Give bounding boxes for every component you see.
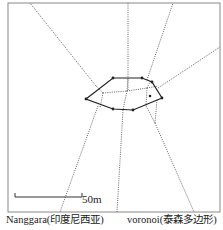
- diagram-frame: [8, 3, 220, 212]
- voronoi-edge: [147, 86, 158, 88]
- vertex-point: [112, 77, 115, 80]
- vertex-point: [151, 81, 154, 84]
- settlement-boundary-polygon: [86, 78, 162, 110]
- voronoi-edge: [158, 47, 220, 88]
- voronoi-edge: [146, 88, 147, 106]
- caption-site-name: Nanggara(印度尼西亚): [6, 213, 104, 227]
- scale-bar-label: 50m: [82, 193, 102, 205]
- voronoi-edge: [123, 91, 127, 110]
- voronoi-edge: [155, 100, 157, 123]
- voronoi-edge: [127, 88, 147, 91]
- interior-point: [149, 95, 152, 98]
- voronoi-edge: [117, 110, 123, 212]
- vertex-point: [161, 97, 164, 100]
- caption-method-name: voronoi(泰森多边形): [127, 213, 217, 227]
- voronoi-edge: [147, 3, 173, 80]
- vertex-point: [85, 98, 88, 101]
- voronoi-edges: [30, 3, 220, 212]
- voronoi-diagram: [0, 0, 223, 230]
- voronoi-edge: [103, 91, 127, 93]
- vertex-point: [112, 108, 115, 111]
- voronoi-edge: [155, 123, 194, 212]
- scale-bar: [15, 193, 82, 197]
- vertex-point: [132, 109, 135, 112]
- voronoi-edge: [146, 106, 155, 123]
- vertex-point: [141, 77, 144, 80]
- voronoi-edge: [30, 3, 96, 86]
